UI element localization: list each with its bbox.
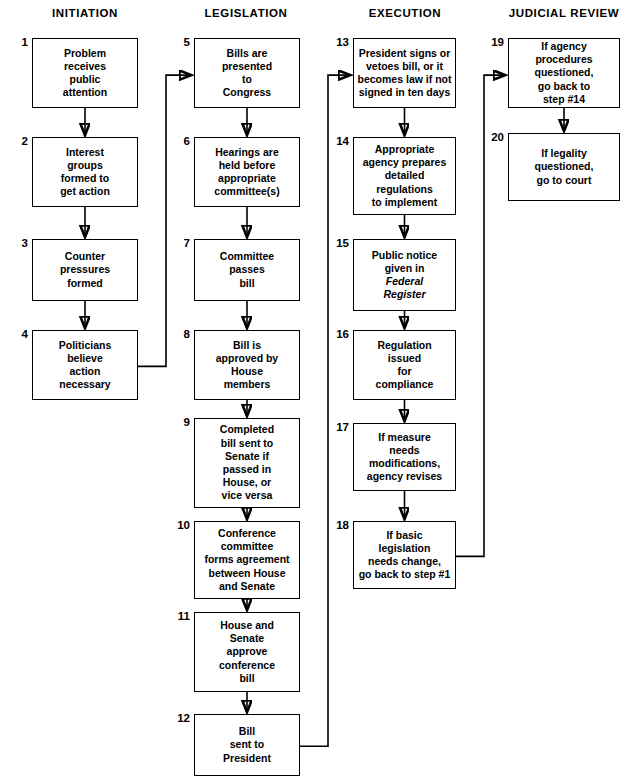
flowchart-node-16[interactable]: Regulationissuedforcompliance: [353, 330, 456, 400]
flowchart-node-8[interactable]: Bill isapproved byHousemembers: [194, 330, 300, 400]
column-header-judicial_review: JUDICIAL REVIEW: [509, 7, 619, 19]
node-label-12: Billsent toPresident: [220, 725, 274, 765]
node-number-8: 8: [168, 328, 190, 340]
node-label-2: Interestgroupsformed toget action: [57, 146, 113, 199]
node-label-3: Counterpressuresformed: [57, 250, 113, 290]
node-label-9: Completedbill sent toSenate ifpassed inH…: [217, 423, 277, 502]
node-number-14: 14: [327, 135, 349, 147]
node-label-20: If legalityquestioned,go to court: [532, 147, 597, 187]
connector-18-to-19: [456, 75, 505, 556]
flowchart-node-20[interactable]: If legalityquestioned,go to court: [508, 133, 620, 201]
node-number-4: 4: [6, 328, 28, 340]
flowchart-node-10[interactable]: Conferencecommitteeforms agreementbetwee…: [194, 521, 300, 599]
node-number-5: 5: [168, 36, 190, 48]
connector-4-to-5: [138, 75, 191, 366]
node-label-17: If measureneedsmodifications,agency revi…: [364, 431, 445, 484]
flowchart-node-17[interactable]: If measureneedsmodifications,agency revi…: [353, 423, 456, 491]
flowchart-node-12[interactable]: Billsent toPresident: [194, 714, 300, 776]
node-number-19: 19: [482, 36, 504, 48]
flowchart-node-4[interactable]: Politiciansbelieveactionnecessary: [32, 330, 138, 400]
column-header-legislation: LEGISLATION: [204, 7, 287, 19]
flowchart-node-1[interactable]: Problemreceivespublicattention: [32, 38, 138, 108]
node-label-4: Politiciansbelieveactionnecessary: [56, 339, 115, 392]
node-number-13: 13: [327, 36, 349, 48]
node-number-20: 20: [482, 131, 504, 143]
flowchart-node-2[interactable]: Interestgroupsformed toget action: [32, 137, 138, 207]
node-label-18: If basiclegislationneeds change,go back …: [356, 529, 454, 582]
flowchart-node-5[interactable]: Bills arepresentedtoCongress: [194, 38, 300, 108]
connector-12-to-13: [300, 75, 350, 746]
node-label-1: Problemreceivespublicattention: [60, 47, 110, 100]
flowchart-node-3[interactable]: Counterpressuresformed: [32, 239, 138, 301]
flowchart-node-6[interactable]: Hearings areheld beforeappropriatecommit…: [194, 137, 300, 207]
node-label-13: President signs orvetoes bill, or itbeco…: [355, 47, 455, 100]
node-label-6: Hearings areheld beforeappropriatecommit…: [211, 146, 282, 199]
node-label-19: If agencyproceduresquestioned,go back to…: [532, 40, 597, 106]
flowchart-node-18[interactable]: If basiclegislationneeds change,go back …: [353, 521, 456, 589]
node-label-15: Public noticegiven inFederalRegister: [369, 249, 440, 302]
node-number-6: 6: [168, 135, 190, 147]
flowchart-node-13[interactable]: President signs orvetoes bill, or itbeco…: [353, 38, 456, 108]
node-label-16: Regulationissuedforcompliance: [373, 339, 437, 392]
node-number-11: 11: [168, 610, 190, 622]
node-number-9: 9: [168, 416, 190, 428]
node-label-14: Appropriateagency preparesdetailedregula…: [360, 143, 449, 209]
column-header-execution: EXECUTION: [369, 7, 442, 19]
flowchart-canvas: INITIATIONLEGISLATIONEXECUTIONJUDICIAL R…: [0, 0, 633, 783]
node-number-3: 3: [6, 237, 28, 249]
node-number-15: 15: [327, 237, 349, 249]
flowchart-node-15[interactable]: Public noticegiven inFederalRegister: [353, 239, 456, 311]
flowchart-node-19[interactable]: If agencyproceduresquestioned,go back to…: [508, 38, 620, 108]
flowchart-node-14[interactable]: Appropriateagency preparesdetailedregula…: [353, 137, 456, 215]
node-number-17: 17: [327, 421, 349, 433]
node-number-2: 2: [6, 135, 28, 147]
node-label-10: Conferencecommitteeforms agreementbetwee…: [201, 527, 292, 593]
flowchart-node-9[interactable]: Completedbill sent toSenate ifpassed inH…: [194, 418, 300, 508]
node-number-18: 18: [327, 519, 349, 531]
node-label-7: Committeepassesbill: [217, 250, 277, 290]
node-number-1: 1: [6, 36, 28, 48]
node-label-5: Bills arepresentedtoCongress: [219, 47, 275, 100]
node-label-11: House andSenateapproveconferencebill: [216, 619, 278, 685]
node-number-16: 16: [327, 328, 349, 340]
flowchart-node-11[interactable]: House andSenateapproveconferencebill: [194, 612, 300, 692]
node-label-8: Bill isapproved byHousemembers: [213, 339, 281, 392]
column-header-initiation: INITIATION: [52, 7, 118, 19]
node-number-10: 10: [168, 519, 190, 531]
node-number-12: 12: [168, 712, 190, 724]
flowchart-node-7[interactable]: Committeepassesbill: [194, 239, 300, 301]
node-number-7: 7: [168, 237, 190, 249]
